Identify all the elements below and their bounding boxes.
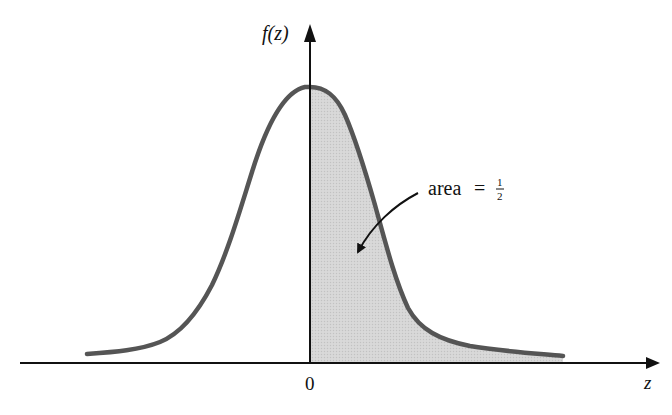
- annotation-equals: =: [474, 177, 485, 199]
- annotation-word: area: [428, 177, 461, 199]
- y-axis-label: f(z): [262, 22, 289, 45]
- shaded-area-right-half: [310, 87, 563, 363]
- annotation-fraction-numerator: 1: [497, 176, 503, 188]
- annotation-fraction-denominator: 2: [497, 190, 503, 202]
- x-axis-arrowhead-icon: [646, 357, 660, 369]
- y-axis-arrowhead-icon: [304, 24, 316, 42]
- normal-density-figure: f(z) z 0 area = 1 2: [0, 0, 672, 415]
- x-axis-label: z: [643, 372, 652, 393]
- origin-tick-label: 0: [305, 373, 315, 394]
